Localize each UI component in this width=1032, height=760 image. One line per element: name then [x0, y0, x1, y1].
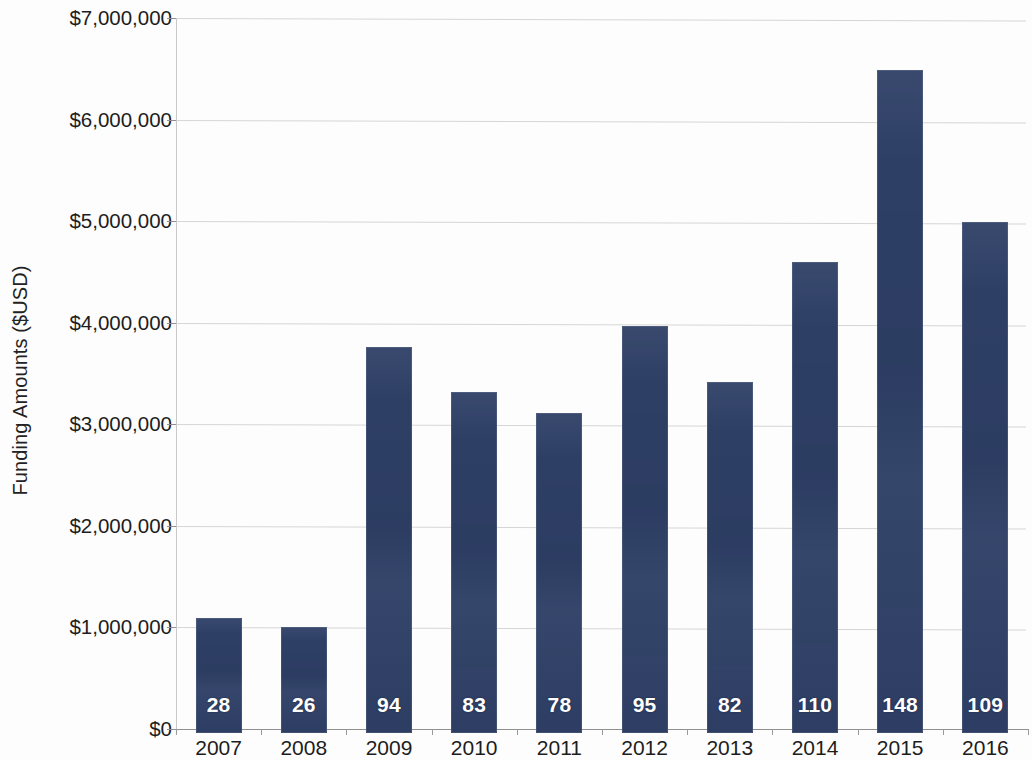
y-axis-tick-label: $4,000,000 [22, 311, 172, 335]
bar[interactable]: 95 [622, 326, 668, 733]
x-axis-tick-mark [772, 729, 773, 735]
y-axis-tick-labels: $0$1,000,000$2,000,000$3,000,000$4,000,0… [0, 0, 172, 760]
bar-value-label: 82 [707, 693, 753, 717]
x-axis-tick-mark [687, 729, 688, 735]
bar-value-label: 78 [536, 693, 582, 717]
bar[interactable]: 109 [962, 222, 1008, 733]
bar-value-label: 83 [451, 693, 497, 717]
bar[interactable]: 94 [366, 347, 412, 733]
bar-value-label: 28 [196, 693, 242, 717]
y-axis-tick-label: $1,000,000 [22, 615, 172, 639]
x-axis-tick-mark [517, 729, 518, 735]
bar[interactable]: 83 [451, 392, 497, 733]
y-axis-tick-label: $2,000,000 [22, 514, 172, 538]
y-axis-line [176, 18, 177, 730]
bar-value-label: 26 [281, 693, 327, 717]
x-axis-tick-mark [943, 729, 944, 735]
x-axis-tick-label: 2011 [517, 736, 602, 760]
y-axis-tick-label: $7,000,000 [22, 6, 172, 30]
x-axis-tick-mark [261, 729, 262, 735]
bar[interactable]: 26 [281, 627, 327, 733]
x-axis-tick-label: 2010 [432, 736, 517, 760]
bar[interactable]: 110 [792, 262, 838, 733]
x-axis-tick-label: 2007 [176, 736, 261, 760]
x-axis-tick-label: 2014 [772, 736, 857, 760]
x-axis-tick-mark [432, 729, 433, 735]
x-axis-tick-mark [602, 729, 603, 735]
x-axis-tick-mark [346, 729, 347, 735]
bar-value-label: 109 [962, 693, 1008, 717]
bar[interactable]: 28 [196, 618, 242, 733]
bar[interactable]: 148 [877, 70, 923, 733]
bar[interactable]: 78 [536, 413, 582, 733]
x-axis-tick-label: 2016 [943, 736, 1028, 760]
x-axis-tick-mark [1028, 729, 1029, 735]
x-axis-tick-label: 2008 [261, 736, 346, 760]
bar-value-label: 95 [622, 693, 668, 717]
bar-chart: Funding Amounts ($USD) $0$1,000,000$2,00… [0, 0, 1032, 760]
bar-value-label: 110 [792, 693, 838, 717]
gridline [168, 18, 1026, 22]
x-axis-tick-label: 2015 [858, 736, 943, 760]
y-axis-tick-label: $0 [22, 717, 172, 741]
plot-area: 28269483789582110148109 2007200820092010… [176, 18, 1028, 733]
x-axis-tick-mark [858, 729, 859, 735]
y-axis-tick-label: $6,000,000 [22, 108, 172, 132]
bar[interactable]: 82 [707, 382, 753, 733]
bar-value-label: 148 [877, 693, 923, 717]
x-axis-tick-label: 2013 [687, 736, 772, 760]
x-axis-tick-label: 2009 [346, 736, 431, 760]
y-axis-tick-label: $3,000,000 [22, 412, 172, 436]
y-axis-tick-label: $5,000,000 [22, 209, 172, 233]
x-axis-tick-label: 2012 [602, 736, 687, 760]
bar-value-label: 94 [366, 693, 412, 717]
x-axis-tick-mark [176, 729, 177, 735]
